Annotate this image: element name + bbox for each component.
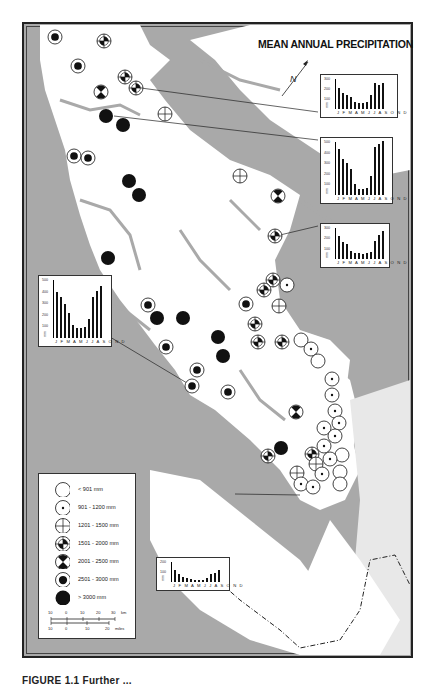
chart-bar: [60, 297, 62, 338]
chart-y-axis: [53, 280, 54, 338]
scale-mile-tick: 10: [48, 626, 52, 631]
legend-item: 1501 - 2000 mm: [39, 536, 119, 550]
chart-y-tick: 100: [324, 247, 330, 251]
quadrant-circle-icon: [248, 317, 262, 331]
chart-bars: [338, 79, 386, 109]
chart-bar: [186, 578, 188, 582]
ring-filled-circle-icon: [67, 149, 81, 163]
chart-month-labels: J F M A M J J A S O N D: [337, 260, 408, 265]
chart-y-label: mm: [161, 575, 165, 581]
ring-filled-circle-icon: [185, 379, 199, 393]
chart-bar: [92, 297, 94, 338]
map-title: MEAN ANNUAL PRECIPITATION: [258, 38, 413, 50]
chart-bar: [366, 253, 368, 259]
chart-bar: [378, 144, 380, 195]
chart-bar: [88, 319, 90, 338]
legend-item: < 901 mm: [39, 482, 103, 496]
scale-mile-tick: 20: [105, 626, 109, 631]
climograph-1: 100200300mmJ F M A M J J A S O N D: [320, 74, 398, 118]
chart-bar: [202, 580, 204, 583]
chart-y-axis: [335, 228, 336, 259]
legend-item: 2501 - 3000 mm: [39, 572, 119, 586]
solid-circle-icon: [211, 330, 225, 344]
chart-bar: [382, 83, 384, 110]
chart-bar: [194, 580, 196, 583]
chart-bar: [358, 189, 360, 195]
chart-bar: [362, 254, 364, 259]
chart-bar: [382, 141, 384, 195]
chart-bar: [206, 578, 208, 583]
chart-y-tick: 300: [324, 77, 330, 81]
quadrant-circle-icon: [118, 70, 132, 84]
chart-y-tick: 200: [324, 172, 330, 176]
hourglass-circle-icon: [271, 189, 285, 203]
legend-label: 2001 - 2500 mm: [78, 558, 119, 564]
solid-circle-icon: [216, 349, 230, 363]
chart-bar: [374, 241, 376, 259]
crosshair-circle-icon: [233, 169, 247, 183]
chart-y-axis: [171, 562, 172, 582]
legend: 10 0 10 20 30 km 10 0 10 20 miles < 901 …: [38, 473, 136, 639]
dot-circle-icon: [304, 342, 318, 356]
solid-circle-icon: [116, 118, 130, 132]
quadrant-circle-icon: [261, 449, 275, 463]
ring-filled-circle-icon: [190, 363, 204, 377]
dot-circle-icon: [317, 439, 331, 453]
dot-circle-icon: [306, 480, 320, 494]
scale-mile-tick: 0: [65, 626, 67, 631]
dot-circle-icon: [315, 467, 329, 481]
quadrant-circle-icon: [268, 229, 282, 243]
chart-y-tick: 400: [324, 151, 330, 155]
chart-bar: [374, 83, 376, 109]
chart-bar: [178, 574, 180, 582]
open-circle-icon: [56, 483, 71, 498]
chart-bar: [366, 102, 368, 109]
chart-y-tick: 100: [324, 97, 330, 101]
scale-km-tick: 30: [111, 610, 115, 615]
ring-filled-circle-icon: [141, 298, 155, 312]
legend-label: < 901 mm: [78, 486, 103, 492]
ring-filled-circle-icon: [239, 297, 253, 311]
ring-filled-circle-icon: [221, 385, 235, 399]
chart-bar: [354, 253, 356, 259]
scale-bar: 10 0 10 20 30 km 10 0 10 20 miles: [45, 610, 131, 636]
chart-y-axis: [335, 142, 336, 195]
chart-y-tick: 400: [42, 290, 48, 294]
chart-bar: [378, 235, 380, 259]
scale-km-tick: 0: [65, 610, 67, 615]
chart-bar: [84, 327, 86, 338]
chart-bar: [76, 328, 78, 338]
crosshair-circle-icon: [56, 519, 71, 534]
chart-bar: [362, 189, 364, 195]
chart-bar: [210, 574, 212, 582]
chart-bar: [342, 242, 344, 259]
chart-y-tick: 200: [160, 560, 166, 564]
dot-circle-icon: [56, 501, 71, 516]
scale-mile-tick: 10: [85, 626, 89, 631]
quadrant-circle-icon: [275, 335, 289, 349]
hourglass-circle-icon: [94, 85, 108, 99]
chart-bar: [346, 95, 348, 109]
chart-bar: [366, 188, 368, 195]
figure-caption: FIGURE 1.1 Further ...: [22, 675, 132, 686]
climograph-5: 100200mmJ F M A M J J A S O N D: [156, 557, 230, 591]
legend-item: > 3000 mm: [39, 590, 106, 604]
climograph-3: 100200300mmJ F M A M J J A S O N D: [320, 223, 390, 268]
solid-circle-icon: [56, 591, 71, 606]
chart-month-labels: J F M A M J J A S O N D: [337, 110, 408, 115]
chart-bar: [64, 304, 66, 338]
chart-y-tick: 100: [324, 182, 330, 186]
climograph-2: 100200300400500mmJ F M A M J J A S O N D: [320, 137, 393, 204]
quadrant-circle-icon: [56, 537, 71, 552]
chart-y-tick: 300: [42, 301, 48, 305]
scale-km-tick: 10: [80, 610, 84, 615]
chart-bar: [362, 103, 364, 109]
chart-y-label: mm: [325, 102, 329, 108]
quadrant-circle-icon: [129, 81, 143, 95]
chart-bar: [342, 159, 344, 195]
chart-bar: [338, 88, 340, 109]
chart-bar: [342, 93, 344, 109]
chart-bar: [182, 577, 184, 583]
ring-filled-circle-icon: [81, 151, 95, 165]
hourglass-circle-icon: [289, 405, 303, 419]
